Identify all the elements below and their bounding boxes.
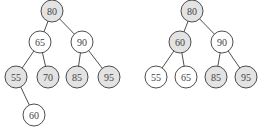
node-label: 65 (181, 72, 191, 83)
tree-node-85: 85 (66, 66, 88, 88)
node-label: 65 (35, 37, 45, 48)
tree-node-90: 90 (71, 31, 93, 53)
tree-node-55: 55 (5, 66, 27, 88)
node-label: 85 (72, 72, 82, 83)
node-label: 70 (43, 72, 53, 83)
node-label: 85 (211, 72, 221, 83)
node-label: 60 (29, 110, 39, 121)
tree-node-60: 60 (169, 31, 191, 53)
tree-node-85: 85 (205, 66, 227, 88)
edges-layer (16, 11, 246, 115)
tree-node-60: 60 (23, 104, 45, 126)
node-label: 90 (217, 37, 227, 48)
tree-node-65: 65 (175, 66, 197, 88)
tree-node-90: 90 (211, 31, 233, 53)
node-label: 90 (77, 37, 87, 48)
tree-diagram: 806590557085956080609055658595 (0, 0, 264, 134)
node-label: 55 (11, 72, 21, 83)
node-label: 80 (47, 6, 57, 17)
tree-node-70: 70 (37, 66, 59, 88)
tree-node-80: 80 (181, 0, 203, 22)
tree-node-55: 55 (145, 66, 167, 88)
tree-node-65: 65 (29, 31, 51, 53)
nodes-layer: 806590557085956080609055658595 (5, 0, 257, 126)
node-label: 80 (187, 6, 197, 17)
node-label: 95 (241, 72, 251, 83)
tree-node-95: 95 (98, 66, 120, 88)
tree-node-80: 80 (41, 0, 63, 22)
node-label: 60 (175, 37, 185, 48)
node-label: 55 (151, 72, 161, 83)
node-label: 95 (104, 72, 114, 83)
tree-node-95: 95 (235, 66, 257, 88)
